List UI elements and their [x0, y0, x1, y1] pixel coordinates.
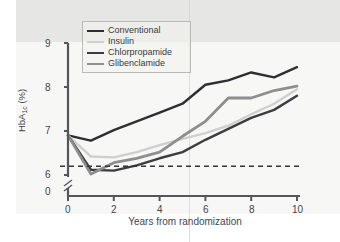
legend-swatch-glibenclamide — [87, 63, 104, 65]
legend-swatch-chlorpropamide — [87, 52, 104, 54]
x-tick-label-10: 10 — [292, 204, 303, 215]
x-tick-label-2: 2 — [111, 204, 117, 215]
y-axis-title-sub: 1c — [21, 106, 28, 113]
x-tick-label-4: 4 — [157, 204, 163, 215]
x-tick-label-0: 0 — [65, 204, 71, 215]
legend-label-chlorpropamide: Chlorpropamide — [108, 47, 172, 58]
series-layer — [68, 67, 297, 174]
legend-item-insulin: Insulin — [87, 36, 186, 47]
legend-label-glibenclamide: Glibenclamide — [108, 58, 165, 69]
y-axis-title-unit: (%) — [16, 89, 27, 106]
x-tick-label-8: 8 — [249, 204, 255, 215]
legend-item-glibenclamide: Glibenclamide — [87, 58, 186, 69]
y-tick-label-7: 7 — [45, 125, 51, 136]
x-axis-title: Years from randomization — [60, 216, 310, 227]
legend-item-conventional: Conventional — [87, 25, 186, 36]
legend-label-conventional: Conventional — [108, 25, 161, 36]
y-tick-label-0: 0 — [45, 186, 51, 197]
legend-item-chlorpropamide: Chlorpropamide — [87, 47, 186, 58]
legend-swatch-conventional — [87, 30, 104, 32]
y-tick-label-9: 9 — [45, 38, 51, 49]
series-line-insulin — [68, 89, 297, 157]
y-axis-title: HbA1c (%) — [16, 75, 29, 145]
y-axis-title-main: HbA — [16, 114, 27, 132]
legend-label-insulin: Insulin — [108, 36, 134, 47]
chart-legend: Conventional Insulin Chlorpropamide Glib… — [82, 21, 191, 73]
y-tick-label-6: 6 — [45, 169, 51, 180]
legend-swatch-insulin — [87, 41, 104, 43]
series-line-chlorpropamide — [68, 96, 297, 171]
series-line-conventional — [68, 67, 297, 140]
y-tick-label-8: 8 — [45, 82, 51, 93]
figure-panel: 9 8 7 6 0 0 2 4 6 8 10 HbA1c (%) Years f… — [0, 0, 340, 242]
series-line-glibenclamide — [68, 86, 297, 174]
x-tick-label-6: 6 — [203, 204, 209, 215]
